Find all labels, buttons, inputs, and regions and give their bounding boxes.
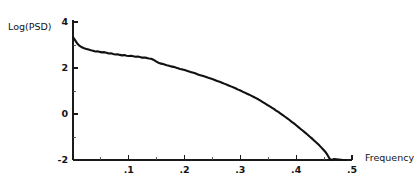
x-tick-label: .3 — [230, 164, 250, 175]
x-tick-label: .2 — [175, 164, 195, 175]
data-line-0 — [73, 37, 345, 160]
x-axis-title: Frequency — [365, 152, 414, 163]
y-tick-label: 0 — [46, 108, 68, 119]
y-axis-title: Log(PSD) — [8, 21, 51, 32]
x-tick-label: .1 — [119, 164, 139, 175]
axes — [73, 20, 352, 160]
y-tick-label: 2 — [46, 62, 68, 73]
data-series-group — [73, 37, 345, 160]
tick-marks — [73, 22, 352, 160]
y-tick-label: -2 — [46, 154, 68, 165]
y-tick-label: 4 — [46, 16, 68, 27]
x-tick-label: .5 — [342, 164, 362, 175]
x-tick-label: .4 — [286, 164, 306, 175]
